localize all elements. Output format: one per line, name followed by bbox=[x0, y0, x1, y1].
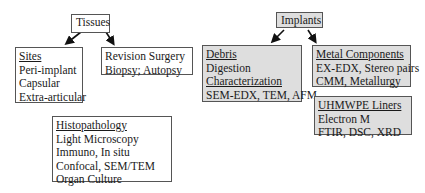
metal-item: EX-EDX, Stereo pairs bbox=[316, 62, 407, 76]
metal-item: CMM, Metallurgy bbox=[316, 75, 407, 89]
arrow-implants-debris bbox=[273, 30, 284, 41]
sites-item: Peri-implant bbox=[19, 64, 79, 78]
uhmwpe-item: FTIR, DSC, XRD bbox=[318, 126, 408, 140]
uhmwpe-box: UHMWPE Liners Electron M FTIR, DSC, XRD bbox=[314, 96, 412, 135]
histopathology-heading: Histopathology bbox=[56, 119, 168, 133]
histopathology-item: Light Microscopy bbox=[56, 133, 168, 147]
sources-item: Biopsy; Autopsy bbox=[105, 64, 189, 78]
uhmwpe-item: Electron M bbox=[318, 113, 408, 127]
histopathology-item: Immuno, In situ bbox=[56, 146, 168, 160]
sites-item: Capsular bbox=[19, 77, 79, 91]
uhmwpe-heading: UHMWPE Liners bbox=[318, 99, 408, 113]
tissues-title: Tissues bbox=[76, 16, 110, 28]
tissues-box: Tissues bbox=[71, 14, 110, 33]
metal-heading: Metal Components bbox=[316, 48, 407, 62]
debris-item: Digestion bbox=[206, 62, 298, 76]
arrow-tissues-sites bbox=[67, 32, 81, 43]
debris-box: Debris Digestion Characterization SEM-ED… bbox=[202, 45, 302, 102]
histopathology-item: Confocal, SEM/TEM bbox=[56, 160, 168, 174]
arrow-tissues-sources bbox=[106, 32, 113, 43]
sites-box: Sites Peri-implant Capsular Extra-articu… bbox=[15, 47, 83, 103]
debris-item: SEM-EDX, TEM, AFM bbox=[206, 89, 298, 103]
characterization-heading: Characterization bbox=[206, 75, 298, 89]
arrow-implants-metal bbox=[308, 30, 315, 41]
sites-item: Extra-articular bbox=[19, 91, 79, 105]
implants-box: Implants bbox=[276, 12, 323, 28]
debris-heading: Debris bbox=[206, 48, 298, 62]
sites-heading: Sites bbox=[19, 50, 79, 64]
histopathology-box: Histopathology Light Microscopy Immuno, … bbox=[52, 116, 172, 182]
sources-box: Revision Surgery Biopsy; Autopsy bbox=[101, 47, 193, 75]
histopathology-item: Organ Culture bbox=[56, 173, 168, 187]
metal-components-box: Metal Components EX-EDX, Stereo pairs CM… bbox=[312, 45, 411, 87]
sources-item: Revision Surgery bbox=[105, 50, 189, 64]
implants-title: Implants bbox=[281, 14, 321, 26]
